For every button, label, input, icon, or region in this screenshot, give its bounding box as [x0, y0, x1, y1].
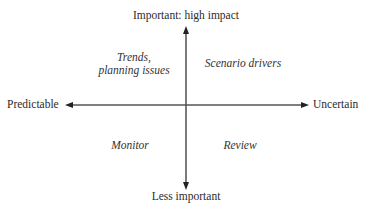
axis-label-bottom: Less important: [152, 190, 221, 203]
axis-label-top: Important: high impact: [133, 9, 239, 22]
quadrant-bottom-right: Review: [223, 139, 256, 152]
quadrant-bottom-left: Monitor: [111, 139, 149, 152]
arrow-up-icon: [183, 26, 189, 34]
quadrant-top-left-line1: Trends,: [98, 51, 169, 64]
axis-label-left: Predictable: [7, 98, 59, 111]
arrow-right-icon: [301, 102, 309, 108]
quadrant-top-left-line2: planning issues: [98, 64, 169, 77]
importance-uncertainty-matrix: Important: high impact Less important Pr…: [0, 0, 370, 213]
quadrant-top-right: Scenario drivers: [205, 57, 281, 70]
arrow-down-icon: [183, 182, 189, 190]
arrow-left-icon: [65, 102, 73, 108]
quadrant-top-left: Trends, planning issues: [98, 51, 169, 77]
axis-label-right: Uncertain: [313, 98, 358, 111]
